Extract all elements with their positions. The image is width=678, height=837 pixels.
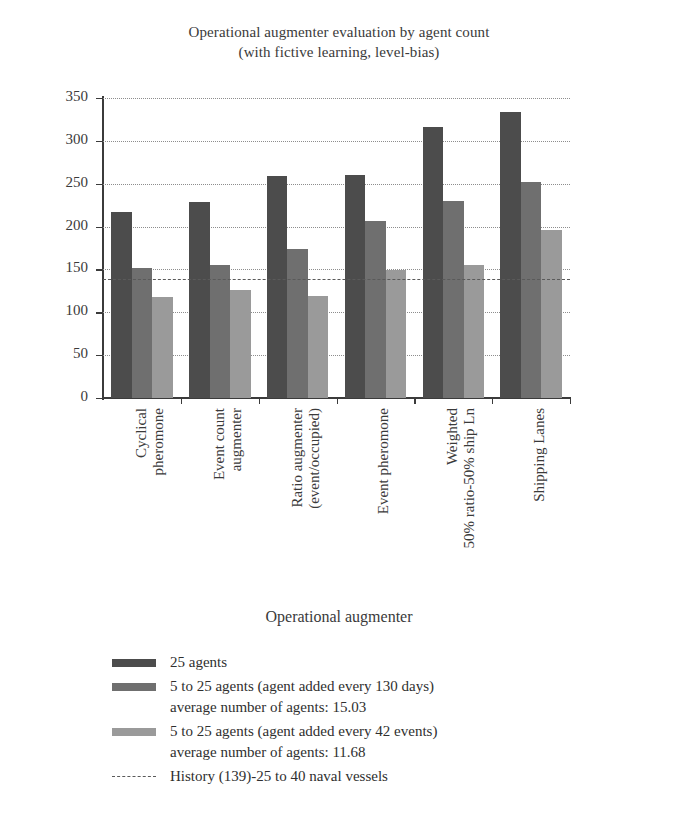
x-category-label-line-1: Shipping Lanes <box>531 408 548 608</box>
bar <box>308 296 329 398</box>
y-tick-label: 350 <box>40 88 88 105</box>
x-category-label: Cyclicalpheromone <box>133 408 167 608</box>
y-axis-tick <box>96 184 103 185</box>
plot-area <box>103 98 570 398</box>
bar <box>132 268 153 398</box>
legend-color-swatch <box>112 683 156 691</box>
bar <box>267 176 288 398</box>
legend-label-main: 25 agents <box>170 654 227 670</box>
bar <box>210 265 231 398</box>
bar <box>230 290 251 398</box>
bar <box>443 201 464 398</box>
y-tick-label: 100 <box>40 302 88 319</box>
y-axis-tick <box>96 398 103 399</box>
y-tick-label: 50 <box>40 345 88 362</box>
legend-label-sub: average number of agents: 11.68 <box>170 742 437 763</box>
bar <box>464 265 485 398</box>
chart-title-line-1: Operational augmenter evaluation by agen… <box>189 24 490 40</box>
x-axis-tick <box>337 398 338 404</box>
legend-item[interactable]: 25 agents <box>112 652 652 673</box>
y-tick-label: 150 <box>40 259 88 276</box>
x-category-label: Event countaugmenter <box>211 408 245 608</box>
legend-label-main: History (139)-25 to 40 naval vessels <box>170 768 388 784</box>
legend-item[interactable]: History (139)-25 to 40 naval vessels <box>112 766 652 787</box>
x-category-label-line-2: (event/occupied) <box>306 408 323 608</box>
legend-label-main: 5 to 25 agents (agent added every 130 da… <box>170 678 434 694</box>
bar <box>287 249 308 398</box>
y-tick-label: 300 <box>40 131 88 148</box>
x-category-label: Ratio augmenter(event/occupied) <box>289 408 323 608</box>
y-tick-label: 250 <box>40 174 88 191</box>
bar <box>423 127 444 398</box>
chart-figure: Operational augmenter evaluation by agen… <box>0 0 678 837</box>
legend-item[interactable]: 5 to 25 agents (agent added every 130 da… <box>112 676 652 718</box>
x-category-label-line-2: pheromone <box>150 408 167 608</box>
y-tick-label: 200 <box>40 217 88 234</box>
x-category-label-line-1: Ratio augmenter <box>289 408 306 608</box>
x-axis-title: Operational augmenter <box>0 608 678 626</box>
legend-dashed-line-marker <box>112 776 156 777</box>
legend-label: 25 agents <box>170 652 227 673</box>
chart-legend: 25 agents5 to 25 agents (agent added eve… <box>112 652 652 790</box>
x-category-label: Event pheromone <box>375 408 392 608</box>
x-axis-tick <box>492 398 493 404</box>
chart-title: Operational augmenter evaluation by agen… <box>0 0 678 62</box>
bar <box>365 221 386 398</box>
bar <box>111 212 132 398</box>
legend-label-main: 5 to 25 agents (agent added every 42 eve… <box>170 723 437 739</box>
legend-color-swatch <box>112 728 156 736</box>
x-category-label-line-1: Cyclical <box>133 408 150 608</box>
x-axis-tick <box>259 398 260 404</box>
bar <box>152 297 173 398</box>
bar <box>386 270 407 398</box>
legend-label-sub: average number of agents: 15.03 <box>170 697 434 718</box>
x-category-label: Weighted50% ratio-50% ship Ln <box>444 408 478 608</box>
legend-color-swatch <box>112 659 156 667</box>
x-category-label: Shipping Lanes <box>531 408 548 608</box>
y-axis-tick <box>96 312 103 313</box>
x-axis-tick <box>570 398 571 404</box>
x-axis-tick <box>414 398 415 404</box>
x-category-label-line-2: 50% ratio-50% ship Ln <box>461 408 478 608</box>
x-category-label-line-1: Event pheromone <box>375 408 392 608</box>
legend-label: 5 to 25 agents (agent added every 42 eve… <box>170 721 437 763</box>
grid-line <box>103 98 570 99</box>
y-axis-tick <box>96 269 103 270</box>
legend-label: 5 to 25 agents (agent added every 130 da… <box>170 676 434 718</box>
x-axis-tick <box>181 398 182 404</box>
bar <box>345 175 366 398</box>
x-category-label-line-1: Event count <box>211 408 228 608</box>
y-axis-tick <box>96 141 103 142</box>
chart-title-line-2: (with fictive learning, level-bias) <box>0 42 678 62</box>
bar <box>541 230 562 398</box>
legend-item[interactable]: 5 to 25 agents (agent added every 42 eve… <box>112 721 652 763</box>
bar <box>500 112 521 398</box>
y-axis-tick <box>96 355 103 356</box>
y-tick-label: 0 <box>40 388 88 405</box>
x-category-label-line-1: Weighted <box>444 408 461 608</box>
bar <box>521 182 542 398</box>
bar <box>189 202 210 398</box>
y-axis-tick <box>96 227 103 228</box>
legend-label: History (139)-25 to 40 naval vessels <box>170 766 388 787</box>
x-category-label-line-2: augmenter <box>228 408 245 608</box>
reference-line <box>103 279 570 280</box>
y-axis-tick <box>96 98 103 99</box>
